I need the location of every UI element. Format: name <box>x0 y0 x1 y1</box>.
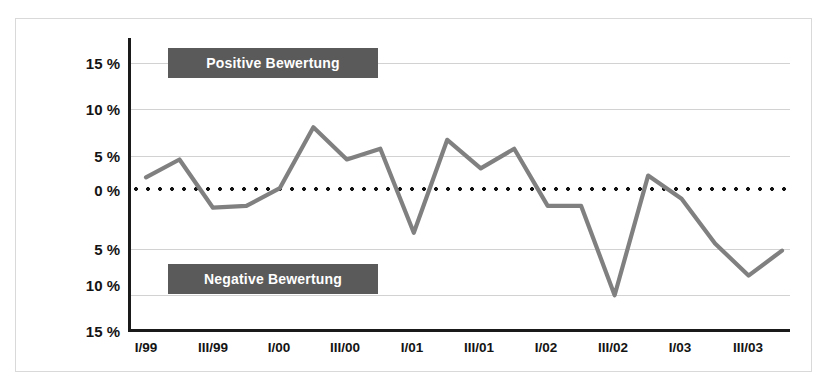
y-tick-label: 5 % <box>58 241 120 258</box>
gridline-neg10 <box>130 295 790 296</box>
x-tick-label: III/00 <box>330 340 360 355</box>
x-tick-label: I/02 <box>535 340 558 355</box>
gridline-neg5 <box>130 249 790 250</box>
y-tick-label: 15 % <box>58 55 120 72</box>
chart-figure: 15 % 10 % 5 % 0 % 5 % 10 % 15 % I/99 III… <box>0 0 829 388</box>
y-tick-label: 10 % <box>58 101 120 118</box>
x-axis-spine <box>128 329 790 332</box>
y-tick-label: 10 % <box>58 277 120 294</box>
x-axis-ticks: I/99 III/99 I/00 III/00 I/01 III/01 I/02… <box>0 340 829 364</box>
x-tick-label: III/01 <box>464 340 494 355</box>
x-tick-label: I/01 <box>401 340 424 355</box>
legend-negative-bewertung: Negative Bewertung <box>168 264 378 294</box>
x-tick-label: III/02 <box>598 340 628 355</box>
legend-positive-bewertung: Positive Bewertung <box>168 48 378 78</box>
x-tick-label: I/03 <box>669 340 692 355</box>
y-axis-spine <box>128 38 131 332</box>
y-tick-label: 5 % <box>58 148 120 165</box>
zero-baseline <box>130 186 790 192</box>
x-tick-label: I/00 <box>268 340 291 355</box>
x-tick-label: III/99 <box>198 340 228 355</box>
gridline-5 <box>130 156 790 157</box>
y-tick-label: 15 % <box>58 323 120 340</box>
y-tick-label: 0 % <box>58 182 120 199</box>
gridline-10 <box>130 109 790 110</box>
x-tick-label: III/03 <box>733 340 763 355</box>
x-tick-label: I/99 <box>135 340 158 355</box>
y-axis-ticks: 15 % 10 % 5 % 0 % 5 % 10 % 15 % <box>52 0 120 388</box>
